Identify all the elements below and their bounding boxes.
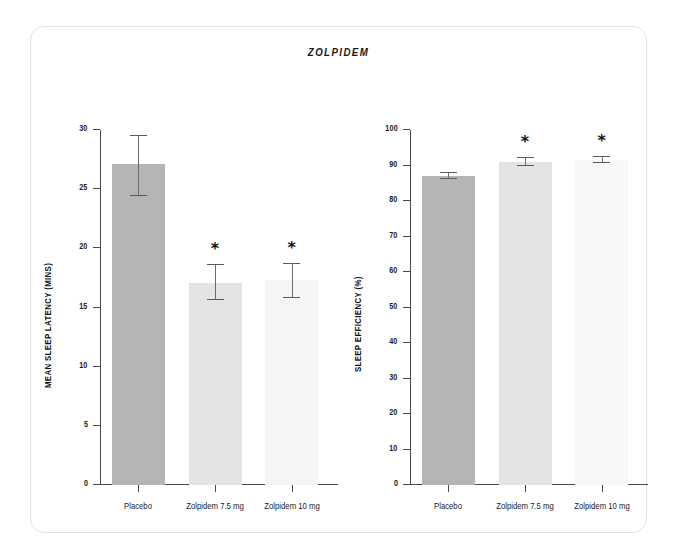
y-axis-tick-label-right: 60 [390, 265, 399, 275]
error-bar-left-2 [292, 264, 293, 298]
x-axis-tick-label-right-0: Placebo [434, 501, 462, 511]
y-axis-tick-right: 0 [403, 484, 410, 485]
chart-panel-sleep-efficiency: SLEEP EFFICIENCY (%) 0102030405060708090… [352, 110, 652, 520]
chart-panel-sleep-latency: MEAN SLEEP LATENCY (MINS) 051015202530Pl… [42, 110, 342, 520]
bar-left-2 [265, 280, 318, 485]
bar-right-2 [575, 160, 628, 485]
y-axis-tick-left: 20 [93, 247, 100, 248]
bar-left-0 [112, 164, 165, 485]
x-axis-tick-right [448, 485, 449, 492]
y-axis-tick-label-right: 70 [390, 230, 399, 240]
y-axis-tick-label-left: 10 [80, 360, 89, 370]
x-axis-tick-left [292, 485, 293, 492]
y-axis-tick-label-left: 0 [84, 478, 88, 488]
y-axis-tick-left: 10 [93, 366, 100, 367]
significance-marker-left-1: * [211, 241, 219, 257]
y-axis-tick-label-left: 15 [80, 301, 89, 311]
y-axis-tick-right: 60 [403, 271, 410, 272]
y-axis-tick-label-right: 20 [390, 407, 399, 417]
x-axis-tick-right [525, 485, 526, 492]
y-axis-tick-label-right: 90 [390, 159, 399, 169]
y-axis-tick-right: 30 [403, 378, 410, 379]
y-axis-tick-label-left: 30 [80, 123, 89, 133]
bar-right-0 [422, 176, 475, 485]
y-axis-title-left: MEAN SLEEP LATENCY (MINS) [43, 263, 53, 388]
error-bar-cap-left-2-upper [283, 263, 300, 264]
x-axis-tick-label-left-2: Zolpidem 10 mg [264, 501, 319, 511]
error-bar-cap-left-0-upper [130, 135, 147, 136]
y-axis-tick-right: 50 [403, 307, 410, 308]
x-axis-tick-label-left-1: Zolpidem 7.5 mg [186, 501, 244, 511]
y-axis-tick-right: 70 [403, 236, 410, 237]
y-axis-tick-right: 100 [403, 129, 410, 130]
y-axis-tick-label-left: 25 [80, 182, 89, 192]
significance-marker-right-1: * [521, 134, 529, 150]
y-axis-tick-label-right: 100 [385, 123, 398, 133]
error-bar-cap-right-0-lower [440, 178, 457, 179]
significance-marker-right-2: * [597, 133, 605, 149]
y-axis-title-right: SLEEP EFFICIENCY (%) [353, 276, 363, 372]
figure-title: ZOLPIDEM [41, 46, 637, 58]
error-bar-left-0 [138, 136, 139, 196]
error-bar-cap-left-0-lower [130, 195, 147, 196]
y-axis-tick-right: 90 [403, 165, 410, 166]
y-axis-tick-right: 40 [403, 342, 410, 343]
y-axis-tick-right: 10 [403, 449, 410, 450]
y-axis-tick-left: 25 [93, 188, 100, 189]
error-bar-cap-right-2-lower [593, 162, 610, 163]
y-axis-tick-label-right: 80 [390, 194, 399, 204]
x-axis-tick-label-right-1: Zolpidem 7.5 mg [496, 501, 554, 511]
error-bar-left-1 [215, 265, 216, 301]
y-axis-line-left [100, 130, 101, 485]
error-bar-cap-left-1-upper [207, 264, 224, 265]
error-bar-cap-right-0-upper [440, 172, 457, 173]
bar-right-1 [499, 162, 552, 485]
y-axis-tick-label-right: 0 [394, 478, 398, 488]
x-axis-tick-label-left-0: Placebo [124, 501, 152, 511]
y-axis-tick-label-right: 10 [390, 443, 399, 453]
y-axis-tick-right: 80 [403, 200, 410, 201]
y-axis-tick-label-right: 50 [390, 301, 399, 311]
y-axis-tick-right: 20 [403, 413, 410, 414]
y-axis-tick-label-left: 5 [84, 419, 88, 429]
error-bar-cap-left-2-lower [283, 297, 300, 298]
y-axis-tick-left: 5 [93, 425, 100, 426]
bar-left-1 [189, 283, 242, 485]
y-axis-line-right [410, 130, 411, 485]
plot-area-right: 0102030405060708090100Placebo*Zolpidem 7… [410, 130, 640, 485]
error-bar-cap-left-1-lower [207, 299, 224, 300]
x-axis-tick-left [138, 485, 139, 492]
significance-marker-left-2: * [287, 240, 295, 256]
x-axis-tick-left [215, 485, 216, 492]
error-bar-cap-right-1-upper [517, 157, 534, 158]
error-bar-cap-right-2-upper [593, 156, 610, 157]
y-axis-tick-label-left: 20 [80, 241, 89, 251]
error-bar-cap-right-1-lower [517, 165, 534, 166]
y-axis-tick-label-right: 40 [390, 336, 399, 346]
x-axis-tick-right [602, 485, 603, 492]
x-axis-tick-label-right-2: Zolpidem 10 mg [574, 501, 629, 511]
y-axis-tick-label-right: 30 [390, 372, 399, 382]
y-axis-tick-left: 30 [93, 129, 100, 130]
y-axis-tick-left: 15 [93, 307, 100, 308]
plot-area-left: 051015202530Placebo*Zolpidem 7.5 mg*Zolp… [100, 130, 330, 485]
y-axis-tick-left: 0 [93, 484, 100, 485]
